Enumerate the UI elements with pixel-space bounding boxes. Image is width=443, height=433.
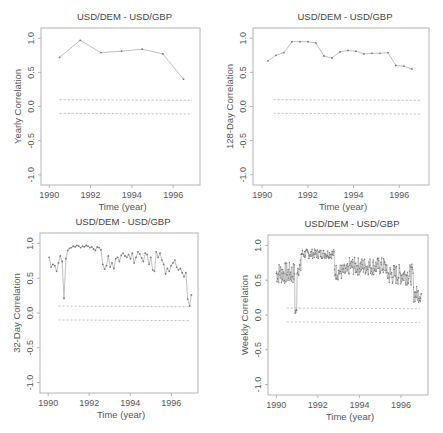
- data-point: [323, 55, 325, 57]
- data-point: [290, 272, 291, 273]
- data-point: [344, 263, 345, 264]
- y-tick-label: 0.5: [253, 274, 263, 287]
- data-point: [278, 272, 279, 273]
- data-point: [277, 274, 278, 275]
- data-point: [335, 274, 336, 275]
- data-point: [300, 259, 301, 260]
- y-axis-label: Yearly Correlation: [12, 69, 23, 144]
- data-point: [113, 268, 115, 270]
- data-point: [303, 254, 304, 255]
- data-point: [337, 279, 338, 280]
- data-point: [311, 251, 312, 252]
- data-point: [393, 269, 394, 270]
- data-point: [344, 265, 345, 266]
- data-point: [403, 280, 404, 281]
- data-point: [355, 50, 357, 52]
- data-point: [387, 277, 388, 278]
- data-point: [280, 269, 281, 270]
- data-point: [362, 260, 363, 261]
- data-point: [59, 57, 61, 59]
- data-point: [325, 255, 326, 256]
- data-point: [328, 256, 329, 257]
- data-point: [354, 257, 355, 258]
- data-point: [374, 268, 375, 269]
- data-point: [191, 294, 193, 296]
- y-tick-label: 0.5: [25, 272, 35, 285]
- data-point: [409, 270, 410, 271]
- data-point: [314, 254, 315, 255]
- data-point: [343, 268, 344, 269]
- data-point: [96, 246, 98, 248]
- data-point: [168, 270, 170, 272]
- data-point: [376, 271, 377, 272]
- y-tick-label: -1.0: [26, 167, 36, 183]
- data-point: [402, 279, 403, 280]
- data-point: [349, 265, 350, 266]
- data-point: [163, 263, 165, 265]
- data-point: [148, 263, 150, 265]
- data-point: [415, 296, 416, 297]
- y-axis-label: 128-Day Correlation: [224, 64, 235, 149]
- data-point: [399, 272, 400, 273]
- data-point: [371, 52, 373, 54]
- data-point: [346, 266, 347, 267]
- data-point: [364, 267, 365, 268]
- data-point: [322, 253, 323, 254]
- data-point: [331, 254, 332, 255]
- data-point: [59, 255, 61, 257]
- data-point: [109, 266, 111, 268]
- data-point: [313, 254, 314, 255]
- data-point: [385, 270, 386, 271]
- data-point: [159, 252, 161, 254]
- data-point: [363, 271, 364, 272]
- x-tick-label: 1990: [38, 398, 58, 408]
- data-point: [371, 268, 372, 269]
- data-point: [317, 249, 318, 250]
- data-point: [348, 266, 349, 267]
- data-point: [417, 299, 418, 300]
- confidence-band-line: [287, 322, 420, 323]
- data-point: [276, 281, 277, 282]
- data-point: [412, 269, 413, 270]
- data-point: [294, 313, 295, 314]
- confidence-band-line: [60, 113, 192, 114]
- data-point: [409, 264, 410, 265]
- data-point: [61, 261, 63, 263]
- data-point: [418, 298, 419, 299]
- data-point: [361, 269, 362, 270]
- data-point: [390, 269, 391, 270]
- data-point: [291, 41, 293, 43]
- data-point: [389, 282, 390, 283]
- data-point: [395, 65, 397, 67]
- data-point: [277, 278, 278, 279]
- data-point: [347, 50, 349, 52]
- y-tick-label: -0.5: [26, 133, 36, 149]
- data-point: [355, 262, 356, 263]
- data-point: [48, 256, 50, 258]
- data-point: [290, 279, 291, 280]
- data-point: [370, 273, 371, 274]
- data-point: [165, 273, 167, 275]
- data-point: [317, 258, 318, 259]
- data-point: [286, 280, 287, 281]
- data-point: [386, 264, 387, 265]
- x-tick-label: 1994: [344, 190, 364, 200]
- data-point: [386, 270, 387, 271]
- data-point: [401, 274, 402, 275]
- x-tick-label: 1990: [252, 190, 272, 200]
- data-point: [174, 259, 176, 261]
- y-tick-label: 1.0: [25, 237, 35, 250]
- plot-frame: [40, 233, 198, 393]
- data-point: [284, 280, 285, 281]
- data-point: [369, 265, 370, 266]
- data-point: [152, 269, 154, 271]
- y-tick-label: -1.0: [253, 377, 263, 393]
- data-point: [404, 272, 405, 273]
- data-point: [296, 310, 297, 311]
- data-point: [297, 268, 298, 269]
- data-point: [345, 271, 346, 272]
- data-point: [80, 247, 82, 249]
- data-point: [281, 282, 282, 283]
- data-point: [276, 273, 277, 274]
- data-point: [278, 264, 279, 265]
